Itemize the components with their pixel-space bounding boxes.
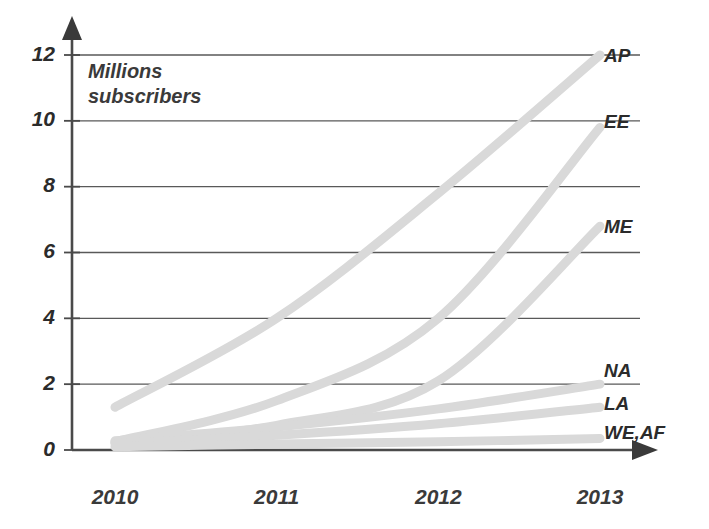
y-axis-tick-label: 6: [43, 239, 55, 262]
x-axis-tick-label: 2012: [414, 485, 462, 508]
y-axis-tick-label: 2: [42, 371, 55, 394]
y-axis-title-line2: subscribers: [88, 85, 201, 107]
series-label-we-af: WE,AF: [604, 422, 667, 443]
y-axis-arrow-icon: [62, 16, 82, 40]
series-label-ee: EE: [604, 111, 631, 132]
x-axis-tick-label: 2010: [91, 485, 139, 508]
series-label-ap: AP: [603, 45, 631, 66]
series-label-la: LA: [604, 393, 629, 414]
y-axis-tick-label: 12: [32, 42, 56, 65]
line-chart-canvas: 024681012 2010201120122013 APEEMENALAWE,…: [0, 0, 709, 529]
y-axis-tick-label: 4: [42, 305, 55, 328]
y-axis-tick-label: 10: [32, 107, 56, 130]
x-axis-tick-label: 2013: [576, 485, 624, 508]
y-axis-title-line1: Millions: [88, 60, 162, 82]
series-curves-group: [115, 55, 600, 447]
series-label-me: ME: [604, 216, 634, 237]
x-axis-tick-label: 2011: [253, 485, 299, 508]
y-axis-tick-labels: 024681012: [32, 42, 56, 460]
series-label-na: NA: [604, 360, 631, 381]
y-axis-tick-label: 8: [43, 173, 55, 196]
x-axis-tick-labels: 2010201120122013: [91, 485, 624, 508]
y-axis-tick-label: 0: [43, 437, 55, 460]
chart-figure: 024681012 2010201120122013 APEEMENALAWE,…: [0, 0, 709, 529]
series-line-ap: [115, 55, 600, 407]
series-labels-group: APEEMENALAWE,AF: [603, 45, 667, 443]
